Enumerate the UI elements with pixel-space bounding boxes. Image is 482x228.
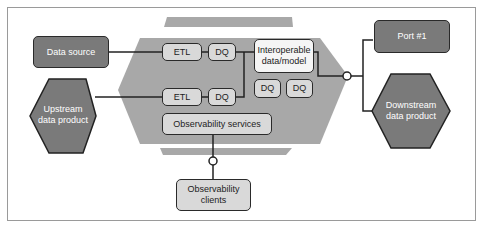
dq-node-4: DQ [286, 79, 313, 98]
upstream-data-product-label: Upstream data product [33, 97, 93, 133]
bottom-band [160, 148, 292, 155]
downstream-data-product-label: Downstream data product [380, 93, 442, 129]
top-band [164, 17, 293, 27]
dq-node-2: DQ [208, 88, 236, 106]
observability-socket-icon [209, 157, 217, 165]
observability-clients-node: Observability clients [176, 179, 251, 211]
etl-node-1: ETL [162, 43, 202, 61]
dq-node-1: DQ [208, 43, 236, 61]
observability-services-node: Observability services [162, 113, 272, 135]
dq-node-3: DQ [254, 79, 281, 98]
port-1-node: Port #1 [374, 20, 450, 53]
etl-node-2: ETL [162, 88, 202, 106]
interface-socket-icon [343, 72, 351, 80]
data-source-node: Data source [33, 36, 109, 68]
interoperable-data-model-node: Interoperable data/model [254, 39, 314, 73]
